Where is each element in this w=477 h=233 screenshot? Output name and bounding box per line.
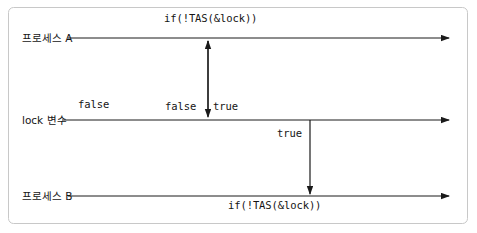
lock-value-read-by-process-b: true [277, 128, 302, 139]
lane-label-process-a: 프로세스 A [22, 33, 73, 44]
diagram-canvas: 프로세스 A lock 변수 프로세스 B if(!TAS(&lock)) if… [0, 0, 477, 233]
lock-value-before: false [165, 101, 196, 112]
lock-value-initial: false [78, 99, 109, 110]
figure-border [9, 8, 468, 224]
lane-label-lock-variable: lock 변수 [22, 115, 67, 126]
code-label-process-b: if(!TAS(&lock)) [228, 200, 321, 211]
lock-value-after: true [213, 101, 238, 112]
code-label-process-a: if(!TAS(&lock)) [164, 13, 257, 24]
lane-label-process-b: 프로세스 B [22, 191, 73, 202]
